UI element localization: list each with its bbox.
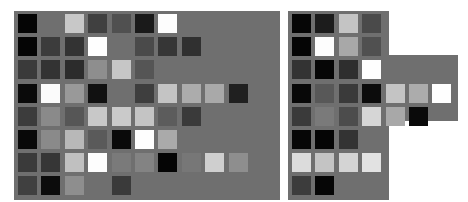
right-grid-cell[interactable] — [339, 37, 358, 56]
right-grid-cell[interactable] — [315, 107, 334, 126]
left-grid-cell[interactable] — [182, 153, 201, 172]
left-grid-cell[interactable] — [158, 14, 177, 33]
left-grid-cell[interactable] — [88, 153, 107, 172]
right-grid-cell[interactable] — [362, 14, 381, 33]
left-grid-cell[interactable] — [65, 37, 84, 56]
right-grid-cell[interactable] — [339, 84, 358, 103]
left-grid-cell[interactable] — [88, 37, 107, 56]
left-grid-cell[interactable] — [158, 107, 177, 126]
left-grid-cell[interactable] — [41, 107, 60, 126]
right-grid-cell[interactable] — [362, 107, 381, 126]
left-grid-cell[interactable] — [65, 176, 84, 195]
right-grid-cell[interactable] — [315, 14, 334, 33]
right-grid-cell[interactable] — [362, 153, 381, 172]
left-grid-cell[interactable] — [18, 14, 37, 33]
left-grid-cell[interactable] — [88, 130, 107, 149]
left-grid-cell[interactable] — [41, 37, 60, 56]
right-grid-cell[interactable] — [386, 84, 405, 103]
right-grid-cell[interactable] — [362, 84, 381, 103]
left-grid-cell[interactable] — [41, 153, 60, 172]
left-grid-cell[interactable] — [18, 60, 37, 79]
left-grid-cell[interactable] — [88, 84, 107, 103]
right-grid-cell[interactable] — [315, 60, 334, 79]
left-grid-cell[interactable] — [182, 107, 201, 126]
left-grid-cell[interactable] — [18, 130, 37, 149]
left-grid-cell[interactable] — [112, 107, 131, 126]
right-grid-cell[interactable] — [362, 37, 381, 56]
left-grid-cell[interactable] — [18, 84, 37, 103]
left-grid-cell[interactable] — [41, 130, 60, 149]
left-grid-cell[interactable] — [112, 153, 131, 172]
left-grid-cell[interactable] — [135, 60, 154, 79]
left-grid-cell[interactable] — [112, 176, 131, 195]
right-grid-cell[interactable] — [339, 14, 358, 33]
right-grid-cell[interactable] — [339, 60, 358, 79]
right-grid-cell[interactable] — [292, 84, 311, 103]
left-grid-cell[interactable] — [65, 107, 84, 126]
right-grid-cell[interactable] — [409, 84, 428, 103]
left-grid-cell[interactable] — [112, 14, 131, 33]
left-grid-cell[interactable] — [229, 84, 248, 103]
left-grid-cell[interactable] — [135, 130, 154, 149]
left-grid-cell[interactable] — [18, 153, 37, 172]
right-grid-cell[interactable] — [292, 107, 311, 126]
left-grid-cell[interactable] — [65, 130, 84, 149]
right-grid-cell[interactable] — [339, 130, 358, 149]
right-grid-cell[interactable] — [292, 37, 311, 56]
left-grid-cell[interactable] — [18, 107, 37, 126]
left-grid-cell[interactable] — [205, 153, 224, 172]
right-grid-cell[interactable] — [362, 60, 381, 79]
right-grid-cell[interactable] — [292, 130, 311, 149]
left-grid-cell[interactable] — [182, 37, 201, 56]
right-grid-cell[interactable] — [292, 60, 311, 79]
left-grid-cell[interactable] — [65, 153, 84, 172]
left-grid-cell[interactable] — [88, 14, 107, 33]
left-grid-cell[interactable] — [229, 153, 248, 172]
left-grid-cell[interactable] — [88, 60, 107, 79]
right-grid-cell[interactable] — [339, 153, 358, 172]
left-grid-cell[interactable] — [135, 84, 154, 103]
left-grid-cell[interactable] — [158, 84, 177, 103]
left-grid-cell[interactable] — [88, 107, 107, 126]
left-grid-cell[interactable] — [135, 107, 154, 126]
right-grid-cell[interactable] — [315, 37, 334, 56]
left-grid-cell[interactable] — [135, 153, 154, 172]
right-grid-cell[interactable] — [315, 153, 334, 172]
left-grid-cell[interactable] — [41, 60, 60, 79]
left-grid-cell[interactable] — [18, 37, 37, 56]
left-grid-cell[interactable] — [112, 60, 131, 79]
right-grid-cell[interactable] — [432, 84, 451, 103]
left-grid-cell[interactable] — [135, 37, 154, 56]
left-grid-cell[interactable] — [112, 130, 131, 149]
left-grid-cell[interactable] — [65, 60, 84, 79]
left-grid-cell[interactable] — [158, 37, 177, 56]
right-grid-cell[interactable] — [409, 107, 428, 126]
left-grid-cell[interactable] — [65, 84, 84, 103]
left-grid-cell[interactable] — [158, 153, 177, 172]
left-grid-cell[interactable] — [18, 176, 37, 195]
left-grid-cell[interactable] — [158, 130, 177, 149]
left-grid-cell[interactable] — [41, 176, 60, 195]
right-grid-cell[interactable] — [315, 176, 334, 195]
left-grid-cell[interactable] — [65, 14, 84, 33]
right-grid-cell[interactable] — [315, 84, 334, 103]
left-grid-cell[interactable] — [182, 84, 201, 103]
right-grid-cell[interactable] — [292, 14, 311, 33]
right-grid-cell[interactable] — [315, 130, 334, 149]
right-grid-cell[interactable] — [292, 153, 311, 172]
left-grid-cell[interactable] — [205, 84, 224, 103]
left-grid-cell[interactable] — [135, 14, 154, 33]
right-grid-cell[interactable] — [386, 107, 405, 126]
right-grid-cell[interactable] — [339, 107, 358, 126]
right-grid-cell[interactable] — [292, 176, 311, 195]
left-grid-cell[interactable] — [41, 84, 60, 103]
